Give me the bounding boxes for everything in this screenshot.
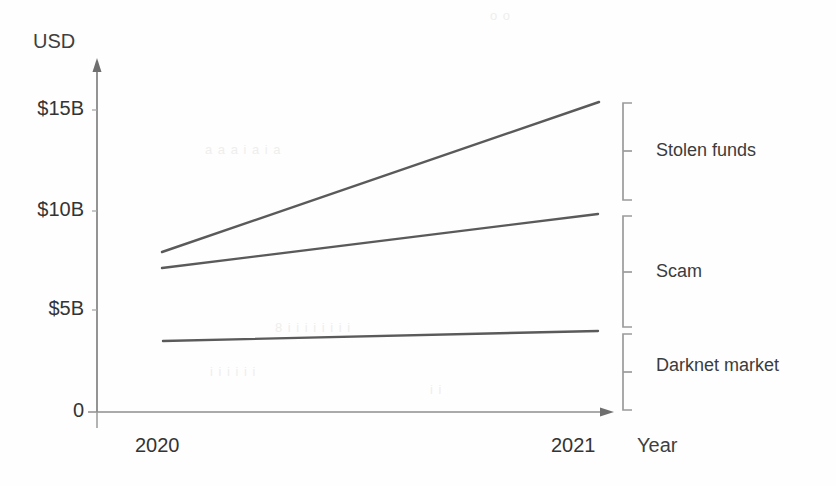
series-line-darknet-market	[163, 331, 598, 341]
y-axis-title: USD	[33, 30, 75, 53]
y-tick-label-10b: $10B	[18, 198, 84, 221]
y-axis-arrowhead	[93, 58, 102, 72]
series-line-stolen-funds	[162, 102, 599, 252]
series-label-stolen-funds: Stolen funds	[656, 140, 756, 161]
x-tick-label-2020: 2020	[135, 434, 180, 457]
series-line-scam	[162, 214, 598, 268]
chart-figure: a a a i a i a 8 i i i i i i i i i i i i …	[0, 0, 836, 486]
y-tick-label-15b: $15B	[18, 97, 84, 120]
x-tick-label-2021: 2021	[551, 434, 596, 457]
series-label-darknet-market: Darknet market	[656, 355, 779, 376]
x-axis-arrowhead	[600, 408, 614, 417]
y-tick-label-5b: $5B	[18, 297, 84, 320]
y-tick-label-0: 0	[18, 399, 84, 422]
plot-strokes	[0, 0, 836, 486]
series-label-scam: Scam	[656, 261, 702, 282]
x-axis-title: Year	[637, 434, 677, 457]
